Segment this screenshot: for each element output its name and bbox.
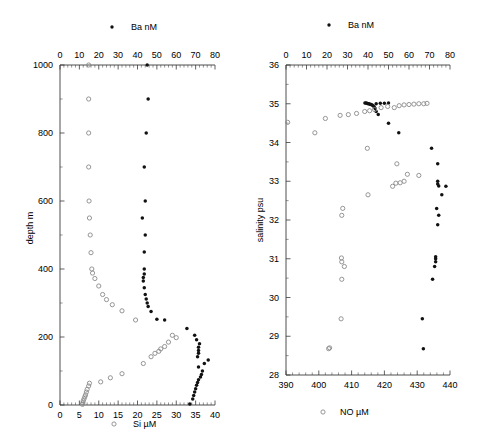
data-point-open <box>341 206 345 210</box>
legend-label-ba: Ba nM <box>348 20 374 30</box>
data-point-filled <box>141 216 145 220</box>
y-tick-label: 30 <box>269 293 279 303</box>
y-tick-label: 400 <box>38 264 53 274</box>
data-point-open <box>338 113 342 117</box>
top-legend-right: Ba nM <box>327 20 374 30</box>
data-point-open <box>88 233 92 237</box>
legend-label-si: Si µM <box>133 419 156 429</box>
data-point-open <box>342 264 346 268</box>
data-point-open <box>84 390 88 394</box>
data-points-right <box>286 101 448 351</box>
bottom-tick-label: 410 <box>344 380 359 390</box>
data-point-open <box>97 284 101 288</box>
y-tick-label: 200 <box>38 332 53 342</box>
data-point-open <box>394 181 398 185</box>
data-point-open <box>163 344 167 348</box>
legend-label-no: NO µM <box>340 407 369 417</box>
data-point-filled <box>203 362 207 366</box>
data-point-filled <box>437 214 441 218</box>
depth-profile-svg: Ba nM 01020304050607080 0510152025303540… <box>0 0 250 437</box>
data-point-open <box>101 292 105 296</box>
data-point-filled <box>379 102 383 106</box>
legend-marker-ba-icon <box>110 25 113 28</box>
data-point-open <box>363 109 367 113</box>
y-tick-label: 0 <box>48 400 53 410</box>
data-point-open <box>104 298 108 302</box>
top-tick-label: 40 <box>132 50 142 60</box>
data-point-filled <box>143 267 147 271</box>
data-point-filled <box>146 305 150 309</box>
legend-marker-no-icon <box>321 410 325 414</box>
bottom-legend-right: NO µM <box>321 407 369 417</box>
panel-salinity-property-plot: Ba nM 01020304050607080 3904004104204304… <box>250 0 478 437</box>
data-point-filled <box>142 276 146 280</box>
data-point-filled <box>434 255 438 259</box>
legend-label-ba: Ba nM <box>131 22 157 32</box>
data-point-filled <box>197 365 201 369</box>
y-axis-tick-labels-right: 282930313233343536 <box>269 60 279 380</box>
data-point-filled <box>143 272 147 276</box>
legend-marker-si-icon <box>112 422 116 426</box>
data-point-open <box>340 213 344 217</box>
data-point-filled <box>436 162 440 166</box>
top-tick-label: 50 <box>152 50 162 60</box>
top-tick-label: 80 <box>445 50 455 60</box>
bottom-tick-label: 400 <box>311 380 326 390</box>
data-point-filled <box>436 223 440 227</box>
data-point-filled <box>144 199 148 203</box>
legend-marker-ba-icon <box>327 23 330 26</box>
data-point-filled <box>433 265 437 269</box>
data-point-open <box>93 276 97 280</box>
data-point-filled <box>206 358 210 362</box>
data-point-open <box>87 199 91 203</box>
data-point-filled <box>377 113 381 117</box>
panel-depth-profile: Ba nM 01020304050607080 0510152025303540… <box>0 0 250 437</box>
data-point-open <box>108 376 112 380</box>
data-point-filled <box>434 260 438 264</box>
data-point-open <box>340 277 344 281</box>
bottom-tick-label: 40 <box>210 410 220 420</box>
data-point-open <box>412 102 416 106</box>
data-point-filled <box>194 387 198 391</box>
data-point-filled <box>422 347 426 351</box>
data-point-filled <box>191 397 195 401</box>
data-point-filled <box>387 121 391 125</box>
data-point-filled <box>430 147 434 151</box>
data-point-open <box>417 102 421 106</box>
data-point-open <box>90 267 94 271</box>
data-point-filled <box>145 63 149 67</box>
bottom-tick-label: 0 <box>57 410 62 420</box>
top-tick-label: 60 <box>171 50 181 60</box>
data-point-open <box>166 340 170 344</box>
data-point-filled <box>193 390 197 394</box>
data-point-open <box>174 336 178 340</box>
y-tick-label: 34 <box>269 138 279 148</box>
data-point-open <box>402 179 406 183</box>
data-point-open <box>395 162 399 166</box>
data-point-open <box>87 165 91 169</box>
top-axis-tick-labels-left: 01020304050607080 <box>57 50 220 60</box>
data-point-filled <box>144 131 148 135</box>
data-point-filled <box>397 131 401 135</box>
data-point-filled <box>185 327 189 331</box>
data-point-open <box>366 193 370 197</box>
data-point-open <box>90 271 94 275</box>
bottom-tick-label: 440 <box>442 380 457 390</box>
y-tick-label: 29 <box>269 331 279 341</box>
data-point-open <box>149 355 153 359</box>
data-point-open <box>141 361 145 365</box>
bottom-tick-label: 15 <box>113 410 123 420</box>
bottom-tick-label: 430 <box>410 380 425 390</box>
data-point-filled <box>201 369 205 373</box>
top-tick-label: 30 <box>342 50 352 60</box>
y-tick-label: 36 <box>269 60 279 70</box>
data-point-filled <box>192 394 196 398</box>
data-point-open <box>397 104 401 108</box>
data-point-filled <box>200 373 204 377</box>
data-point-open <box>89 251 93 255</box>
data-point-filled <box>444 185 448 189</box>
data-point-open <box>87 381 91 385</box>
data-point-open <box>120 372 124 376</box>
y-tick-label: 800 <box>38 128 53 138</box>
top-tick-label: 0 <box>57 50 62 60</box>
